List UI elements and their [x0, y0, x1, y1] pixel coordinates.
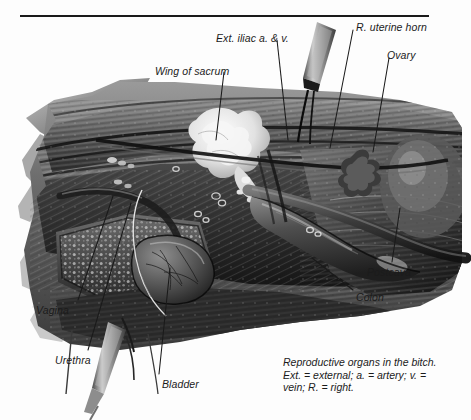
- label-r-uterine-horn: R. uterine horn: [356, 22, 427, 33]
- label-ovary: Ovary: [387, 50, 416, 61]
- figure-page: Ext. iliac a. & v. R. uterine horn Wing …: [0, 0, 471, 420]
- label-ext-iliac: Ext. iliac a. & v.: [216, 33, 289, 44]
- label-colon: Colon: [356, 292, 384, 303]
- caption-line-3: vein; R. = right.: [283, 381, 465, 394]
- figure-caption: Reproductive organs in the bitch. Ext. =…: [283, 356, 465, 394]
- caption-line-2: Ext. = external; a. = artery; v. =: [283, 369, 465, 382]
- label-postcava: Postcava: [367, 267, 411, 278]
- label-urethra: Urethra: [55, 355, 91, 366]
- label-wing-of-sacrum: Wing of sacrum: [155, 66, 229, 77]
- label-vagina: Vagina: [36, 305, 69, 316]
- caption-line-1: Reproductive organs in the bitch.: [283, 356, 465, 369]
- label-bladder: Bladder: [162, 379, 199, 390]
